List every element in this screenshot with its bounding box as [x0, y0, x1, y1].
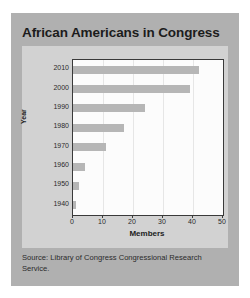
y-tick-label: 1970 [53, 142, 69, 149]
plot-area [72, 59, 224, 216]
y-tick-label: 1980 [53, 122, 69, 129]
chart-figure: African Americans in Congress Year 20102… [0, 0, 250, 298]
y-tick-label: 2010 [53, 64, 69, 71]
x-tick-label: 20 [128, 218, 136, 225]
y-axis-ticks: 20102000199019801970196019501940 [36, 59, 69, 214]
source-note: Source: Library of Congress Congressiona… [22, 253, 230, 274]
bar [73, 66, 199, 74]
y-tick-label: 1940 [53, 200, 69, 207]
gridline [133, 60, 134, 215]
bar [73, 163, 85, 171]
gridline [103, 60, 104, 215]
x-tick-label: 10 [98, 218, 106, 225]
bar [73, 143, 106, 151]
chart-panel: Year 20102000199019801970196019501940 01… [22, 46, 228, 248]
bar [73, 85, 190, 93]
bar [73, 201, 76, 209]
x-tick-label: 40 [188, 218, 196, 225]
x-tick-label: 30 [158, 218, 166, 225]
bar [73, 124, 124, 132]
y-axis-label: Year [20, 109, 27, 124]
bar [73, 104, 145, 112]
chart-title: African Americans in Congress [22, 25, 232, 40]
x-axis-label: Members [72, 229, 222, 238]
gridline [163, 60, 164, 215]
x-tick-label: 0 [70, 218, 74, 225]
y-tick-label: 1950 [53, 180, 69, 187]
bar [73, 182, 79, 190]
y-tick-label: 1990 [53, 103, 69, 110]
chart-card: African Americans in Congress Year 20102… [11, 13, 239, 286]
x-tick-label: 50 [218, 218, 226, 225]
y-tick-label: 2000 [53, 84, 69, 91]
gridline [193, 60, 194, 215]
y-tick-label: 1960 [53, 161, 69, 168]
